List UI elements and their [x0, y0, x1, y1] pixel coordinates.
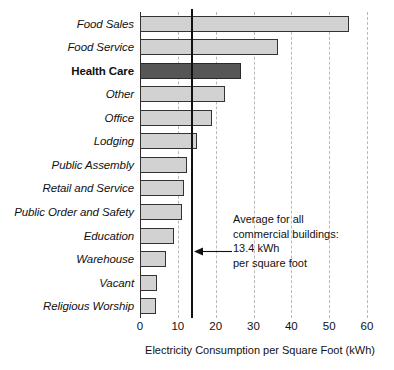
annotation-line-4: per square foot [233, 256, 339, 271]
x-tick-30: 30 [247, 320, 260, 332]
annotation-line-2: commercial buildings: [233, 227, 339, 242]
x-tick-0: 0 [137, 320, 143, 332]
x-tick-20: 20 [209, 320, 222, 332]
x-axis-title: Electricity Consumption per Square Foot … [140, 344, 380, 356]
x-tick-10: 10 [171, 320, 184, 332]
annotation-line-3: 13.4 kWh [233, 241, 339, 256]
category-label-lodging: Lodging [0, 130, 134, 154]
category-label-food-sales: Food Sales [0, 12, 134, 36]
plot-area [140, 12, 367, 318]
bar-row [140, 177, 367, 201]
bar-education [140, 228, 174, 244]
category-label-food-service: Food Service [0, 36, 134, 60]
category-label-public-order-and-safety: Public Order and Safety [0, 200, 134, 224]
annotation-line-1: Average for all [233, 212, 339, 227]
bar-row [140, 59, 367, 83]
category-label-vacant: Vacant [0, 271, 134, 295]
category-label-other: Other [0, 83, 134, 107]
x-tick-40: 40 [285, 320, 298, 332]
bar-row [140, 36, 367, 60]
bar-row [140, 12, 367, 36]
bar-religious-worship [140, 298, 156, 314]
category-label-public-assembly: Public Assembly [0, 153, 134, 177]
gridline-60 [367, 12, 368, 318]
average-reference-line [191, 9, 193, 318]
bar-retail-and-service [140, 180, 184, 196]
category-label-retail-and-service: Retail and Service [0, 177, 134, 201]
category-axis-labels: Food Sales Food Service Health Care Othe… [0, 12, 134, 318]
x-tick-60: 60 [361, 320, 374, 332]
average-annotation: Average for all commercial buildings: 13… [233, 212, 339, 270]
bar-row [140, 106, 367, 130]
category-label-religious-worship: Religious Worship [0, 294, 134, 318]
bar-food-service [140, 39, 278, 55]
x-axis-tick-labels: 0102030405060 [140, 320, 367, 336]
annotation-arrow-icon [194, 247, 232, 256]
bar-food-sales [140, 16, 349, 32]
bar-other [140, 86, 225, 102]
bar-row [140, 130, 367, 154]
bar-lodging [140, 133, 197, 149]
bar-row [140, 83, 367, 107]
category-label-office: Office [0, 106, 134, 130]
bar-warehouse [140, 251, 166, 267]
category-label-health-care: Health Care [0, 59, 134, 83]
bar-row [140, 271, 367, 295]
bar-row [140, 153, 367, 177]
bar-vacant [140, 275, 157, 291]
bar-series [140, 12, 367, 318]
x-tick-50: 50 [323, 320, 336, 332]
electricity-consumption-bar-chart: Food Sales Food Service Health Care Othe… [0, 0, 394, 370]
category-label-education: Education [0, 224, 134, 248]
bar-row [140, 294, 367, 318]
bar-public-assembly [140, 157, 187, 173]
category-label-warehouse: Warehouse [0, 247, 134, 271]
bar-public-order-and-safety [140, 204, 182, 220]
bar-office [140, 110, 212, 126]
